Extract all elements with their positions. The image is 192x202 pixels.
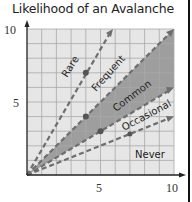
x-tick-10: 10 [166, 181, 178, 195]
avalanche-chart: 10 5 5 10 Rare Frequent Common Occasiona… [0, 0, 192, 202]
point-frequent [83, 114, 89, 120]
x-axis-arrow-icon [179, 173, 186, 178]
label-never: Never [135, 149, 166, 160]
point-rare [83, 70, 89, 76]
right-border [188, 0, 190, 202]
y-tick-10: 10 [4, 23, 16, 37]
y-tick-5: 5 [13, 96, 19, 110]
y-axis-arrow-icon [25, 20, 30, 27]
point-never [127, 132, 132, 137]
x-tick-5: 5 [96, 181, 102, 195]
point-occasional [98, 128, 104, 134]
